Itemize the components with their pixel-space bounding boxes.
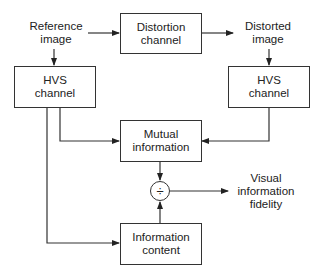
hvs-channel-right-box: HVS channel xyxy=(228,66,310,108)
visual-information-fidelity-label: Visual information fidelity xyxy=(228,172,304,211)
mutual-information-box: Mutual information xyxy=(120,120,202,162)
information-content-box: Information content xyxy=(120,223,202,265)
divide-operator-icon: ÷ xyxy=(150,181,170,201)
distorted-image-label: Distorted image xyxy=(232,20,304,46)
reference-image-label: Reference image xyxy=(20,20,92,46)
distortion-channel-box: Distortion channel xyxy=(120,13,202,54)
hvs-channel-left-box: HVS channel xyxy=(14,66,96,108)
